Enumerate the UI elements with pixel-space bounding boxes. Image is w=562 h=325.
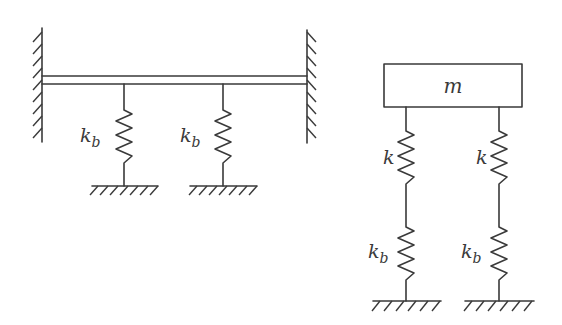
spring-system-diagram: kb kb: [0, 0, 562, 325]
beam-spring-1: [116, 84, 132, 186]
spring-label: k: [383, 146, 395, 168]
beam-spring-2: [215, 84, 231, 186]
right-system: m k kb k kb: [368, 64, 534, 311]
ground-2: [189, 186, 257, 195]
spring-label: kb: [80, 124, 101, 150]
spring-label: kb: [180, 124, 201, 150]
left-system: kb kb: [33, 28, 316, 195]
spring-label: k: [476, 146, 488, 168]
right-wall: [307, 30, 316, 143]
ground-4: [464, 301, 534, 311]
spring-label: kb: [368, 240, 389, 266]
ground-3: [372, 301, 441, 311]
mass-label: m: [444, 74, 463, 98]
ground-1: [90, 186, 158, 195]
spring-label: kb: [461, 240, 482, 266]
column-2: [491, 107, 507, 301]
beam: [42, 76, 307, 84]
column-1: [398, 107, 414, 301]
left-wall: [33, 28, 42, 142]
